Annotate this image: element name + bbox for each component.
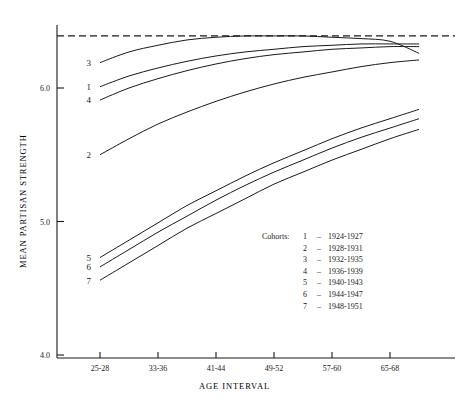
y-tick-labels: 4.05.06.0 (40, 84, 50, 360)
x-tick-label: 33-36 (149, 364, 168, 373)
x-tick-marks (100, 352, 390, 358)
legend-key-7: 7 (303, 302, 307, 311)
curve-3 (100, 36, 419, 63)
legend-range-2: 1928-1931 (328, 244, 363, 253)
legend-range-6: 1944-1947 (328, 290, 363, 299)
curve-6 (100, 119, 419, 267)
x-axis-title: AGE INTERVAL (199, 381, 270, 391)
x-tick-label: 41-44 (207, 364, 226, 373)
legend-range-7: 1948-1951 (328, 302, 363, 311)
curve-5 (100, 109, 419, 257)
legend-range-1: 1924-1927 (328, 232, 363, 241)
legend-dash: – (316, 278, 322, 287)
curve-7 (100, 129, 419, 280)
chart-figure: MEAN PARTISAN STRENGTH AGE INTERVAL 4.05… (0, 0, 463, 400)
y-tick-label: 4.0 (40, 351, 50, 360)
legend-key-5: 5 (303, 278, 307, 287)
legend-dash: – (316, 267, 322, 276)
curve-label-4: 4 (87, 95, 92, 105)
legend-key-2: 2 (303, 244, 307, 253)
y-tick-label: 6.0 (40, 84, 50, 93)
legend-key-6: 6 (303, 290, 307, 299)
axes (57, 25, 455, 358)
legend-dash: – (316, 232, 322, 241)
legend: Cohorts:1–1924-19272–1928-19313–1932-193… (262, 232, 363, 311)
legend-key-1: 1 (303, 232, 307, 241)
legend-dash: – (316, 290, 322, 299)
curve-label-3: 3 (87, 58, 92, 68)
curve-2 (100, 60, 419, 155)
y-tick-marks (57, 88, 64, 355)
chart-canvas: 4.05.06.0 25-2833-3641-4449-5257-6065-68… (0, 0, 463, 400)
legend-dash: – (316, 255, 322, 264)
y-axis-title: MEAN PARTISAN STRENGTH (18, 134, 28, 268)
curve-4 (100, 47, 419, 100)
legend-range-4: 1936-1939 (328, 267, 363, 276)
curve-label-2: 2 (87, 150, 92, 160)
curve-label-7: 7 (87, 276, 92, 286)
legend-key-4: 4 (303, 267, 307, 276)
x-tick-label: 65-68 (381, 364, 400, 373)
legend-range-3: 1932-1935 (328, 255, 363, 264)
legend-dash: – (316, 302, 322, 311)
curve-label-6: 6 (87, 262, 92, 272)
x-tick-label: 25-28 (91, 364, 110, 373)
legend-title: Cohorts: (262, 232, 290, 241)
y-tick-label: 5.0 (40, 218, 50, 227)
legend-dash: – (316, 244, 322, 253)
legend-range-5: 1940-1943 (328, 278, 363, 287)
x-tick-label: 49-52 (265, 364, 284, 373)
x-tick-label: 57-60 (323, 364, 342, 373)
curve-end-labels: 3142567 (87, 58, 92, 286)
legend-key-3: 3 (303, 255, 307, 264)
data-curves (100, 36, 419, 280)
curve-label-1: 1 (87, 82, 92, 92)
x-tick-labels: 25-2833-3641-4449-5257-6065-68 (91, 364, 400, 373)
